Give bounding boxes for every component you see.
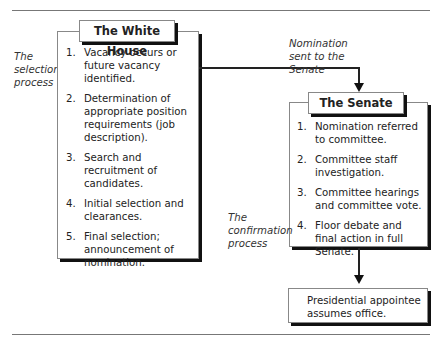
outcome-text: Presidential appointee assumes office. [289,289,427,320]
senate-step-4: 4.Floor debate and final action in full … [297,219,423,258]
arrow-down-icon [354,83,364,92]
senate-box: 1.Nomination referred to committee. 2.Co… [289,102,428,247]
senate-title: The Senate [308,92,404,114]
bottom-rule [12,334,430,335]
senate-step-3: 3.Committee hearings and committee vote. [297,186,423,212]
connector-senate-outcome [358,248,360,276]
white-house-steps: 1.Vacancy occurs or future vacancy ident… [58,32,198,269]
white-house-box: 1.Vacancy occurs or future vacancy ident… [57,31,199,259]
white-house-step-3: 3.Search and recruitment of candidates. [66,151,192,190]
white-house-step-2: 2.Determination of appropriate position … [66,92,192,144]
white-house-step-5: 5.Final selection; announcement of nomin… [66,230,192,269]
outcome-box: Presidential appointee assumes office. [288,288,428,323]
arrow-down-icon [354,275,364,284]
nomination-sent-label: Nomination sent to the Senate [289,37,369,76]
confirmation-process-label: The confirmation process [228,211,286,250]
white-house-step-4: 4.Initial selection and clearances. [66,197,192,223]
top-rule [12,10,430,11]
white-house-title: The White House [79,20,175,42]
senate-steps: 1.Nomination referred to committee. 2.Co… [290,103,427,258]
senate-step-2: 2.Committee staff investigation. [297,153,423,179]
senate-step-1: 1.Nomination referred to committee. [297,120,423,146]
selection-process-label: The selection process [14,50,58,89]
